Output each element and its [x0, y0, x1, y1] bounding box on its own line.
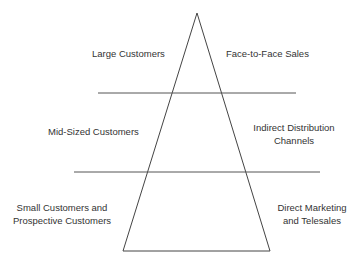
label-indirect-distribution: Indirect Distribution Channels [252, 121, 336, 147]
label-face-to-face-sales: Face-to-Face Sales [226, 47, 309, 60]
label-indirect-line1: Indirect Distribution [252, 121, 336, 134]
label-direct-line1: Direct Marketing [274, 201, 350, 214]
label-direct-line2: and Telesales [274, 214, 350, 227]
label-small-customers: Small Customers and Prospective Customer… [12, 201, 112, 227]
label-direct-marketing: Direct Marketing and Telesales [274, 201, 350, 227]
label-indirect-line2: Channels [252, 134, 336, 147]
label-mid-sized-customers: Mid-Sized Customers [48, 125, 139, 138]
label-small-line2: Prospective Customers [12, 214, 112, 227]
label-small-line1: Small Customers and [12, 201, 112, 214]
label-large-customers: Large Customers [92, 47, 165, 60]
